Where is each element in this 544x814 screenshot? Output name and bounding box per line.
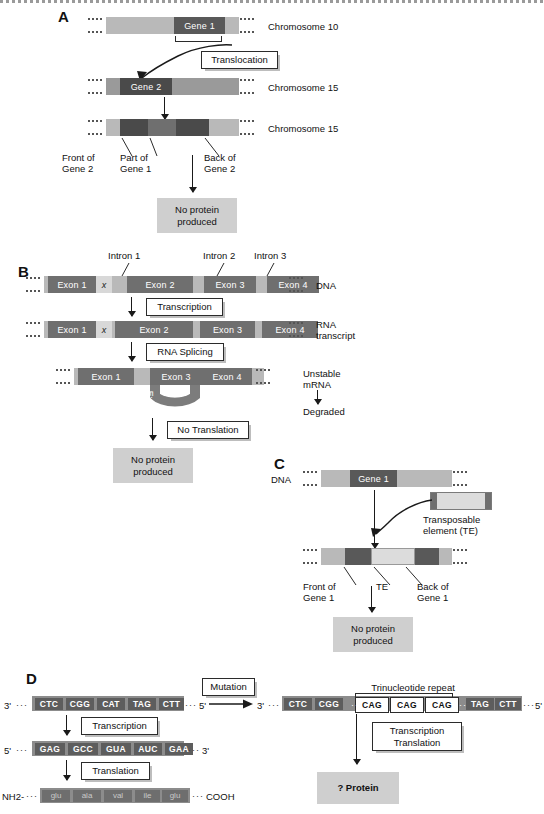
callout-front-of-gene-2: Front of Gene 2 [62, 152, 95, 174]
panel-d-dna-right-dots: ··· [185, 700, 197, 710]
panel-d-arrow-translation [62, 760, 71, 780]
panel-d-right-arrow [352, 714, 361, 764]
dna-codon-4: TAG [128, 698, 156, 710]
gene-2-label: Gene 2 [120, 78, 172, 95]
rna-exon-2-label: Exon 2 [115, 321, 193, 338]
panel-c-back-of-gene-1-segment [415, 548, 439, 565]
callout-part-of-gene-1: Part of Gene 1 [120, 152, 151, 174]
dna-codon-3: CAT [97, 698, 125, 710]
panel-d-mutant-strip: CTC CGG CAG CAG CAG TAG CTT [282, 696, 522, 711]
panel-a-result-box: No protein produced [157, 198, 237, 233]
panel-c-callout-te: TE [376, 581, 388, 592]
mutant-codon-tag: TAG [466, 698, 494, 710]
figure-canvas: A Gene 1 Chromosome 10 Translocation Gen… [0, 0, 544, 814]
dna-mutation-marker-segment: x [96, 276, 112, 293]
mutant-codon-cgg: CGG [315, 698, 343, 710]
dna-exon-3-label: Exon 3 [204, 276, 256, 293]
panel-d-rna-3prime: 3' [202, 745, 209, 756]
chromosome-10-label: Chromosome 10 [268, 21, 338, 32]
panel-b-spliced-right-dots [256, 368, 272, 385]
panel-c-dna-right-dots [453, 470, 469, 487]
panel-b-spliced-bar: Exon 1 Exon 4 Exon 3 [74, 368, 264, 385]
rna-exon-3-label: Exon 3 [200, 321, 255, 338]
amino-acid-4: ile [135, 790, 160, 802]
repeat-codon-1: CAG [355, 697, 389, 713]
panel-b-rna-left-dots [26, 321, 42, 338]
rna-splicing-step-box: RNA Splicing [146, 343, 224, 361]
rna-mutation-marker-segment: x [96, 321, 112, 338]
chromosome-15-a-right-dots [240, 78, 256, 95]
chromosome-15-a-label: Chromosome 15 [268, 82, 338, 93]
panel-b-arrow-no-translation [148, 418, 157, 440]
rna-codon-3: GUA [101, 743, 131, 755]
rna-codon-4: AUC [134, 743, 162, 755]
panel-c-disrupted-bar [321, 548, 452, 565]
panel-b-rna-right-dots [289, 321, 305, 338]
panel-a-arrow-1 [160, 97, 169, 119]
panel-d-protein-strip: glu ala val ile glu [40, 788, 190, 803]
panel-c-gene-1-label: Gene 1 [350, 470, 397, 487]
top-dashed-rule [0, 0, 544, 3]
panel-d-transcription-box: Transcription [81, 717, 158, 735]
protein-c-terminus: COOH [206, 791, 235, 802]
panel-b-rna-bar: Exon 1 x Exon 2 Exon 3 Exon 4 [44, 321, 289, 338]
panel-c-result-right-dots [453, 548, 469, 565]
panel-d-dna-5prime-left: 5' [199, 700, 206, 711]
panel-d-dna-left-dots: ··· [16, 700, 28, 710]
panel-a-letter: A [58, 8, 69, 25]
panel-b-dna-left-dots [26, 276, 42, 293]
repeat-gap-dots-left: ·· [351, 700, 359, 710]
mutation-arrow [209, 698, 255, 710]
panel-d-rna-left-dots: ··· [16, 745, 28, 755]
chromosome-15-b-right-dots [240, 119, 256, 136]
panel-d-rna-right-dots: ··· [188, 745, 200, 755]
amino-acid-5: glu [162, 790, 188, 802]
intron-2-label: Intron 2 [203, 250, 235, 261]
translocation-step-box: Translocation [201, 51, 278, 69]
no-translation-step-box: No Translation [167, 421, 249, 439]
panel-b-dna-right-dots [289, 276, 305, 293]
transcription-step-box: Transcription [146, 298, 223, 316]
rna-exon-1-label: Exon 1 [48, 321, 96, 338]
protein-n-terminus: NH2- [2, 791, 24, 802]
panel-d-mutant-5prime: 5' [535, 700, 542, 711]
panel-b-rna-row-label: RNA transcript [316, 319, 355, 341]
trinucleotide-repeat-label: Trinucleotide repeat [348, 682, 478, 693]
chromosome-15-b-label: Chromosome 15 [268, 123, 338, 134]
rna-codon-2: GCC [68, 743, 98, 755]
panel-c-gene-1-segment: Gene 1 [350, 470, 397, 487]
panel-c-te-segment [371, 548, 415, 565]
dna-mutation-marker-label: x [96, 276, 112, 293]
panel-c-dna-label: DNA [271, 474, 291, 485]
transposable-element-box [430, 492, 492, 510]
panel-d-result-box: ? Protein [317, 772, 399, 804]
mutation-step-box: Mutation [202, 678, 255, 696]
dna-codon-5: CTT [159, 698, 184, 710]
amino-acid-2: ala [73, 790, 101, 802]
back-of-gene-2-segment [176, 119, 209, 136]
dna-codon-1: CTC [35, 698, 63, 710]
panel-b-result-box: No protein produced [113, 448, 193, 483]
panel-d-right-dna-left-dots: ··· [268, 700, 280, 710]
panel-b-arrow-transcription [127, 297, 136, 316]
panel-d-rna-5prime: 5' [4, 745, 11, 756]
panel-d-translation-box: Translation [81, 762, 150, 780]
panel-c-arrow-result [367, 586, 376, 612]
mutant-codon-ctc: CTC [284, 698, 312, 710]
repeat-codon-2: CAG [390, 697, 424, 713]
chromosome-10-left-dots [88, 17, 104, 34]
te-insertion-arrow [366, 498, 436, 538]
chromosome-10-bar: Gene 1 [106, 17, 239, 34]
rna-mutation-marker-label: x [96, 321, 112, 338]
repeat-gap-dots-right: ·· [459, 700, 467, 710]
panel-d-dna-3prime-left: 3' [4, 700, 11, 711]
unstable-mrna-note: Unstable mRNA [303, 368, 341, 390]
amino-acid-3: val [104, 790, 132, 802]
panel-d-dna-strip: CTC CGG CAT TAG CTT [32, 696, 184, 711]
chromosome-15-gene2-bar: Gene 2 [106, 78, 239, 95]
gene-2-segment: Gene 2 [120, 78, 172, 95]
panel-b-spliced-left-dots [56, 368, 72, 385]
panel-c-letter: C [274, 455, 285, 472]
spliced-exon-4-label: Exon 4 [202, 368, 252, 385]
panel-b-arrow-splicing [127, 342, 136, 361]
